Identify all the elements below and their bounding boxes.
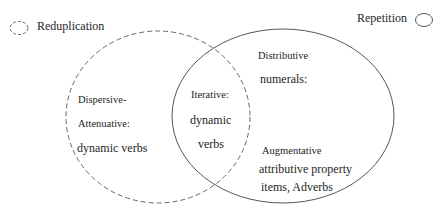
- numerals-label: numerals:: [260, 72, 307, 87]
- iterative-dynamic-label: dynamic: [190, 113, 231, 128]
- dashed-ellipse-icon: [10, 22, 28, 35]
- attributive-property-label: attributive property: [259, 162, 352, 177]
- legend-reduplication-label: Reduplication: [37, 19, 104, 34]
- augmentative-label: Augmentative: [262, 145, 321, 156]
- solid-ellipse-icon: [416, 14, 433, 27]
- items-adverbs-label: items, Adverbs: [261, 180, 333, 195]
- distributive-label: Distributive: [258, 50, 308, 61]
- legend-repetition-label: Repetition: [357, 11, 407, 26]
- dispersive-label: Dispersive-: [78, 94, 126, 105]
- iterative-label: Iterative:: [191, 89, 229, 100]
- iterative-verbs-label: verbs: [198, 137, 224, 152]
- dynamic-verbs-label: dynamic verbs: [77, 141, 147, 156]
- attenuative-label: Attenuative:: [78, 118, 130, 129]
